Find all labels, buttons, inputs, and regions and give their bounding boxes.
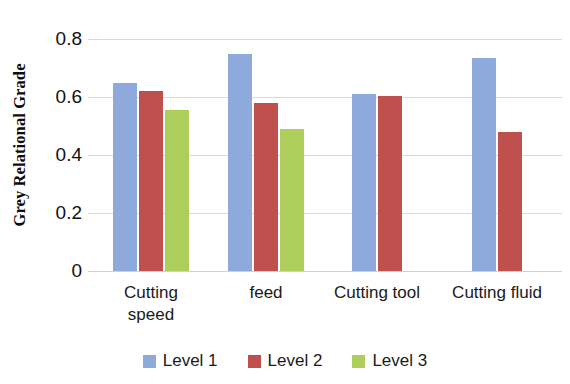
y-axis-tick-3: 0.2 <box>56 202 82 224</box>
bar-cutting-tool-level-2 <box>378 96 402 271</box>
y-axis-tick-4: 0 <box>71 260 82 282</box>
bar-cutting-speed-level-2 <box>139 91 163 271</box>
bar-feed-level-1 <box>228 54 252 272</box>
x-axis-category-labels: CuttingspeedfeedCutting toolCutting flui… <box>88 282 562 340</box>
legend-swatch-icon-2 <box>248 355 261 368</box>
y-axis-tick-1: 0.6 <box>56 86 82 108</box>
legend-label-3: Level 3 <box>372 351 427 371</box>
gridline-0.8 <box>88 39 562 40</box>
bar-cutting-fluid-level-2 <box>498 132 522 271</box>
y-axis-tick-2: 0.4 <box>56 144 82 166</box>
x-axis-label-0: Cuttingspeed <box>86 282 216 326</box>
legend-label-2: Level 2 <box>268 351 323 371</box>
legend-item-level-2[interactable]: Level 2 <box>248 351 323 371</box>
bar-feed-level-2 <box>254 103 278 271</box>
chart-figure: Grey Relational Grade 0.80.60.40.20 Cutt… <box>0 0 570 384</box>
x-axis-label-2: Cutting tool <box>312 282 442 304</box>
gridline-0 <box>88 271 562 272</box>
y-axis-title-text: Grey Relational Grade <box>10 63 30 226</box>
chart-legend: Level 1Level 2Level 3 <box>0 348 570 374</box>
bar-cutting-tool-level-1 <box>352 94 376 271</box>
x-axis-label-3: Cutting fluid <box>432 282 562 304</box>
y-axis-tick-labels: 0.80.60.40.20 <box>38 0 86 290</box>
legend-swatch-icon-3 <box>352 355 365 368</box>
y-axis-tick-0: 0.8 <box>56 28 82 50</box>
bar-cutting-speed-level-3 <box>165 110 189 271</box>
legend-item-level-1[interactable]: Level 1 <box>143 351 218 371</box>
bar-cutting-speed-level-1 <box>113 83 137 272</box>
y-axis-title: Grey Relational Grade <box>0 0 40 290</box>
legend-item-level-3[interactable]: Level 3 <box>352 351 427 371</box>
bar-feed-level-3 <box>280 129 304 271</box>
plot-area <box>88 0 562 290</box>
legend-label-1: Level 1 <box>163 351 218 371</box>
legend-swatch-icon-1 <box>143 355 156 368</box>
bar-cutting-fluid-level-1 <box>472 58 496 271</box>
